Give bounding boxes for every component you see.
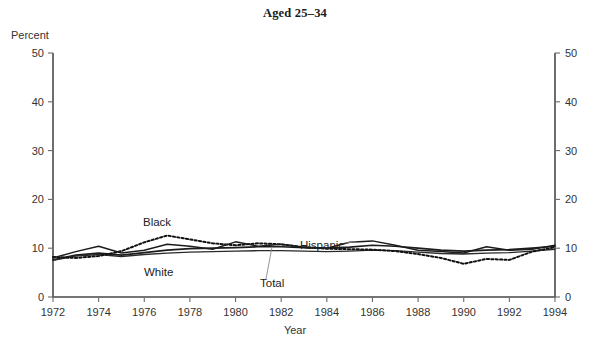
x-tick-label: 1978 <box>178 306 202 318</box>
y-axis-right-ticks: 01020304050 <box>555 47 577 303</box>
series-annotation-white: White <box>144 266 173 278</box>
y-tick-label-right: 0 <box>565 291 571 303</box>
y-tick-label-left: 10 <box>32 242 44 254</box>
x-tick-label: 1976 <box>132 306 156 318</box>
x-tick-label: 1974 <box>86 306 110 318</box>
y-tick-label-right: 50 <box>565 47 577 59</box>
series-annotation-black: Black <box>143 216 171 228</box>
x-tick-label: 1992 <box>497 306 521 318</box>
x-tick-label: 1986 <box>360 306 384 318</box>
y-tick-label-right: 40 <box>565 96 577 108</box>
x-tick-label: 1984 <box>315 306 339 318</box>
y-tick-label-right: 10 <box>565 242 577 254</box>
leader-hispanic <box>345 242 356 243</box>
x-tick-label: 1988 <box>406 306 430 318</box>
y-tick-label-right: 20 <box>565 193 577 205</box>
series-annotation-total: Total <box>260 277 284 289</box>
y-tick-label-left: 50 <box>32 47 44 59</box>
y-tick-label-right: 30 <box>565 145 577 157</box>
y-axis-left-ticks: 01020304050 <box>32 47 53 303</box>
x-tick-label: 1972 <box>41 306 65 318</box>
x-tick-label: 1994 <box>543 306 567 318</box>
y-tick-label-left: 20 <box>32 193 44 205</box>
y-tick-label-left: 0 <box>38 291 44 303</box>
x-tick-label: 1980 <box>223 306 247 318</box>
x-axis-ticks: 1972197419761978198019821984198619881990… <box>41 297 567 318</box>
plot-svg: 01020304050 01020304050 1972197419761978… <box>0 0 590 347</box>
chart-container: Aged 25–34 Percent Year 01020304050 0102… <box>0 0 590 347</box>
y-tick-label-left: 40 <box>32 96 44 108</box>
leader-total <box>266 247 272 279</box>
y-tick-label-left: 30 <box>32 145 44 157</box>
x-tick-label: 1990 <box>451 306 475 318</box>
series-annotation-hispanic: Hispanic <box>300 239 344 251</box>
x-tick-label: 1982 <box>269 306 293 318</box>
